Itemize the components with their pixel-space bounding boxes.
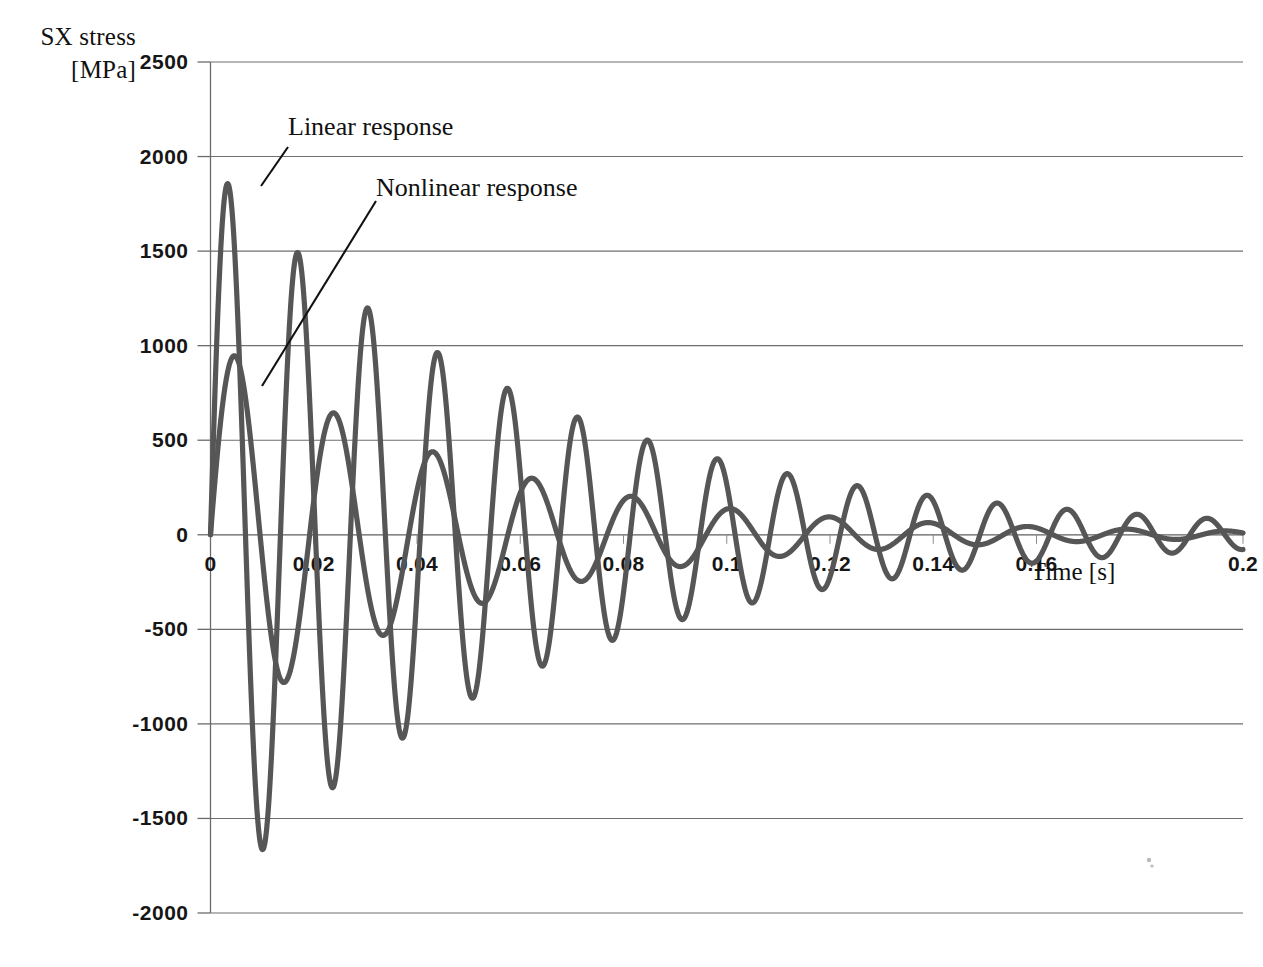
y-tick-labels-group: 25002000150010005000-500-1000-1500-2000 (132, 50, 188, 924)
x-tick-label: 0.06 (499, 552, 541, 575)
scan-speck-2 (1150, 864, 1153, 867)
series-line-nonlinear-response (211, 356, 1244, 683)
annotation-nonlinear-response: Nonlinear response (376, 173, 577, 202)
y-axis-title-line1: SX stress (40, 23, 136, 50)
y-tick-label: 0 (176, 523, 188, 546)
y-tick-label: 1500 (140, 239, 189, 262)
y-tick-label: 2500 (140, 50, 189, 73)
y-tick-label: -1500 (132, 806, 188, 829)
y-axis-title-line2: [MPa] (4, 53, 136, 86)
y-tick-label: -1000 (132, 712, 188, 735)
y-tick-label: -2000 (132, 901, 188, 924)
y-tick-label: 1000 (140, 334, 189, 357)
x-tick-label: 0 (205, 552, 217, 575)
y-tick-label: 2000 (140, 145, 189, 168)
y-tick-label: 500 (152, 428, 189, 451)
x-axis-title: Time [s] (1031, 558, 1116, 585)
series-line-linear-response (211, 184, 1244, 850)
leader-line-linear (261, 147, 288, 186)
figure-root: SX stress [MPa] 25002000150010005000-500… (0, 0, 1263, 967)
y-tick-label: -500 (144, 617, 188, 640)
x-tick-label: 0.2 (1228, 552, 1258, 575)
annotation-linear-response: Linear response (288, 112, 453, 141)
chart-canvas: 25002000150010005000-500-1000-1500-2000 … (0, 0, 1263, 967)
x-tick-label: 0.14 (912, 552, 954, 575)
y-axis-title: SX stress [MPa] (4, 20, 136, 86)
scan-speck (1147, 858, 1151, 862)
